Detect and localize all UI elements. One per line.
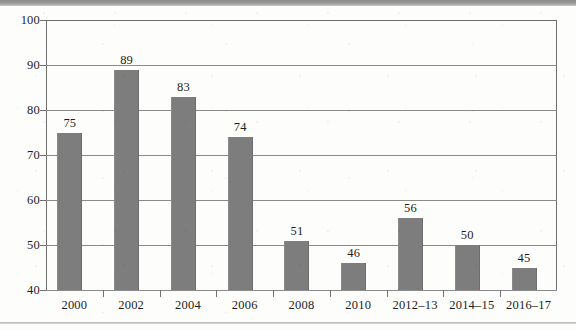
x-axis-tick-label: 2016–17 bbox=[506, 298, 551, 313]
x-axis-tick bbox=[103, 290, 104, 297]
x-axis-tick-label: 2004 bbox=[175, 298, 201, 313]
bar-value-label: 74 bbox=[234, 120, 247, 135]
x-axis-tick bbox=[273, 290, 274, 297]
x-axis-tick-label: 2014–15 bbox=[449, 298, 494, 313]
bar bbox=[512, 268, 537, 291]
y-axis-tick-label: 80 bbox=[4, 103, 40, 118]
bar-value-label: 83 bbox=[177, 80, 190, 95]
y-axis-tick bbox=[40, 245, 46, 246]
y-axis-tick-label: 60 bbox=[4, 193, 40, 208]
x-axis-tick bbox=[500, 290, 501, 297]
y-axis-tick-label: 40 bbox=[4, 283, 40, 298]
scan-bottom-rule bbox=[0, 322, 576, 324]
bar-value-label: 56 bbox=[404, 201, 417, 216]
y-axis-tick bbox=[40, 155, 46, 156]
bar bbox=[284, 241, 309, 291]
y-axis-tick bbox=[40, 290, 46, 291]
y-axis-tick-label: 90 bbox=[4, 58, 40, 73]
x-axis-tick bbox=[330, 290, 331, 297]
x-axis-tick bbox=[160, 290, 161, 297]
y-axis-tick-label: 100 bbox=[4, 13, 40, 28]
bar bbox=[341, 263, 366, 290]
bar-value-label: 75 bbox=[63, 116, 76, 131]
bar-chart: 405060708090100 758983745146565045 20002… bbox=[0, 0, 576, 330]
y-axis-tick bbox=[40, 65, 46, 66]
bar-value-label: 46 bbox=[347, 246, 360, 261]
y-axis-tick bbox=[40, 110, 46, 111]
x-axis-tick bbox=[443, 290, 444, 297]
bar-value-label: 45 bbox=[518, 251, 531, 266]
x-axis-tick bbox=[387, 290, 388, 297]
plot-top-border bbox=[46, 20, 557, 21]
y-axis-tick-label: 50 bbox=[4, 238, 40, 253]
bar bbox=[228, 137, 253, 290]
x-axis-tick-label: 2010 bbox=[345, 298, 371, 313]
y-axis-tick-label: 70 bbox=[4, 148, 40, 163]
y-axis-tick bbox=[40, 20, 46, 21]
bar bbox=[114, 70, 139, 291]
bar-value-label: 50 bbox=[461, 228, 474, 243]
x-axis-tick-label: 2006 bbox=[232, 298, 258, 313]
y-axis-labels: 405060708090100 bbox=[0, 0, 40, 330]
bar bbox=[171, 97, 196, 291]
gridline bbox=[46, 290, 557, 291]
bar bbox=[57, 133, 82, 291]
x-axis-tick-label: 2002 bbox=[118, 298, 144, 313]
x-axis-tick-label: 2008 bbox=[289, 298, 315, 313]
x-axis-tick-label: 2000 bbox=[61, 298, 87, 313]
bar-value-label: 51 bbox=[291, 224, 304, 239]
plot-area: 758983745146565045 bbox=[46, 20, 557, 290]
x-axis-tick bbox=[216, 290, 217, 297]
y-axis-tick bbox=[40, 200, 46, 201]
bar bbox=[398, 218, 423, 290]
bar-value-label: 89 bbox=[120, 53, 133, 68]
bar bbox=[455, 245, 480, 290]
x-axis-tick-label: 2012–13 bbox=[392, 298, 437, 313]
